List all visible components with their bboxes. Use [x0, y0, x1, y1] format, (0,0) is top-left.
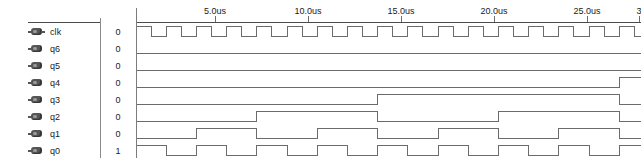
waveform-trace-q1[interactable]	[136, 129, 641, 139]
signal-value: 0	[115, 27, 120, 37]
time-tick-label: 5.0us	[204, 6, 226, 16]
time-tick-label: 25.0us	[573, 6, 600, 16]
waveform-trace-q4[interactable]	[136, 78, 641, 88]
signal-value: 0	[115, 129, 120, 139]
signal-row-q5[interactable]: q5	[0, 57, 100, 74]
signal-row-q3[interactable]: q3	[0, 91, 100, 108]
signal-name-label: q0	[50, 146, 60, 156]
signal-value: 0	[115, 44, 120, 54]
signal-pin-out-icon	[28, 44, 45, 53]
signal-value-row-q3: 0	[100, 91, 136, 108]
signal-value-row-q4: 0	[100, 74, 136, 91]
signal-name-label: q2	[50, 112, 60, 122]
waveform-canvas[interactable]	[136, 22, 641, 165]
signal-name-label: q3	[50, 95, 60, 105]
signal-name-label: q1	[50, 129, 60, 139]
signal-value-row-q1: 0	[100, 125, 136, 142]
signal-value: 0	[115, 78, 120, 88]
signal-value: 1	[115, 146, 120, 156]
waveform-trace-clk[interactable]	[136, 27, 641, 37]
signal-name-label: q6	[50, 44, 60, 54]
time-tick-label: 3	[636, 6, 641, 16]
signal-name-label: q4	[50, 78, 60, 88]
waveform-trace-q3[interactable]	[136, 95, 641, 105]
waveform-pane[interactable]: 5.0us10.0us15.0us20.0us25.0us3	[136, 0, 641, 165]
signal-value-row-q5: 0	[100, 57, 136, 74]
signal-value-row-q2: 0	[100, 108, 136, 125]
signal-pin-out-icon	[28, 112, 45, 121]
signal-row-q0[interactable]: q0	[0, 142, 100, 159]
time-tick-label: 15.0us	[387, 6, 414, 16]
signal-name-label: q5	[50, 61, 60, 71]
signal-row-q6[interactable]: q6	[0, 40, 100, 57]
signal-value: 0	[115, 112, 120, 122]
signal-value: 0	[115, 61, 120, 71]
signal-row-q1[interactable]: q1	[0, 125, 100, 142]
signal-value: 0	[115, 95, 120, 105]
signal-row-q2[interactable]: q2	[0, 108, 100, 125]
signal-row-clk[interactable]: clk	[0, 23, 100, 40]
signal-name-label: clk	[50, 27, 61, 37]
time-cursor[interactable]	[136, 8, 137, 158]
time-tick-label: 20.0us	[480, 6, 507, 16]
signal-value-row-clk: 0	[100, 23, 136, 40]
signal-pin-out-icon	[28, 95, 45, 104]
time-ruler[interactable]: 5.0us10.0us15.0us20.0us25.0us3	[136, 0, 641, 22]
signal-value-pane: 00000001	[100, 0, 136, 165]
signal-pin-out-icon	[28, 61, 45, 70]
signal-value-row-q0: 1	[100, 142, 136, 159]
signal-pin-io-icon	[28, 27, 45, 36]
signal-pin-out-icon	[28, 78, 45, 87]
signal-name-pane: clkq6q5q4q3q2q1q0	[0, 0, 100, 165]
waveform-trace-q0[interactable]	[136, 146, 641, 156]
signal-pin-out-icon	[28, 146, 45, 155]
waveform-viewer-window: clkq6q5q4q3q2q1q0 00000001 5.0us10.0us15…	[0, 0, 641, 165]
signal-value-row-q6: 0	[100, 40, 136, 57]
signal-pin-out-icon	[28, 129, 45, 138]
waveform-trace-q2[interactable]	[136, 112, 641, 122]
signal-row-q4[interactable]: q4	[0, 74, 100, 91]
time-tick-label: 10.0us	[294, 6, 321, 16]
